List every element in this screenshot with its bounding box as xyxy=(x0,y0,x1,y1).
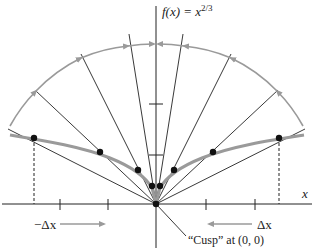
axes xyxy=(2,6,312,248)
origin-point xyxy=(153,201,159,207)
right-delta-label: Δx xyxy=(257,217,272,232)
x-axis-label: x xyxy=(301,186,308,201)
function-title: f(x) = x2/3 xyxy=(162,3,213,19)
cusp-diagram: f(x) = x2/3 x −Δx Δx “Cusp” at (0, 0) xyxy=(0,0,314,252)
function-curve xyxy=(10,135,304,204)
cusp-annotation: “Cusp” at (0, 0) xyxy=(188,233,264,247)
left-delta-label: −Δx xyxy=(34,217,57,232)
